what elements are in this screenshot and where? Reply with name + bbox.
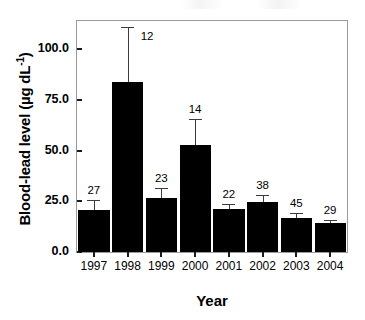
y-axis-tick-label: 75.0 — [45, 92, 69, 107]
y-axis-title-text: Blood-lead level (µg dL — [16, 66, 33, 226]
sample-size-label-2000: 14 — [189, 103, 202, 116]
y-axis-tick-label: 50.0 — [45, 143, 69, 158]
bar-1997 — [78, 210, 109, 252]
x-axis-tick-mark — [127, 252, 129, 257]
sample-size-label-2004: 29 — [324, 204, 337, 217]
bar-2002 — [247, 202, 278, 252]
y-axis-title-tail: ) — [16, 52, 33, 57]
x-axis-tick-mark — [262, 252, 264, 257]
x-axis-tick-label: 2002 — [249, 259, 276, 273]
error-bar-1997 — [94, 200, 95, 211]
y-axis-tick-mark — [77, 150, 82, 152]
x-axis-tick-label: 2003 — [283, 259, 310, 273]
bar-1999 — [146, 198, 177, 252]
x-axis-tick-label: 2004 — [317, 259, 344, 273]
error-cap-2003 — [290, 213, 303, 214]
y-axis-title: Blood-lead level (µg dL-1) — [15, 9, 33, 269]
scan-artifact — [180, 0, 350, 9]
x-axis-tick-mark — [160, 252, 162, 257]
x-axis-tick-mark — [194, 252, 196, 257]
x-axis-tick-mark — [93, 252, 95, 257]
error-cap-2002 — [256, 195, 269, 196]
sample-size-label-1997: 27 — [87, 184, 100, 197]
x-axis-tick-label: 1998 — [114, 259, 141, 273]
error-cap-2000 — [189, 119, 202, 120]
error-cap-1998 — [121, 27, 134, 28]
y-axis-tick-mark — [77, 48, 82, 50]
error-cap-2004 — [324, 220, 337, 221]
x-axis-tick-mark — [329, 252, 331, 257]
error-cap-1999 — [155, 188, 168, 189]
x-axis-tick-label: 1999 — [148, 259, 175, 273]
bar-2001 — [213, 209, 244, 252]
y-axis-tick-mark — [77, 200, 82, 202]
bar-1998 — [112, 82, 143, 252]
error-cap-2001 — [222, 204, 235, 205]
error-bar-2000 — [195, 119, 196, 145]
x-axis-title: Year — [76, 292, 348, 309]
y-axis-title-exponent: -1 — [15, 57, 26, 66]
chart-figure: Blood-lead level (µg dL-1) 0.025.050.075… — [0, 0, 365, 320]
bar-2003 — [281, 218, 312, 252]
x-axis-tick-label: 2000 — [182, 259, 209, 273]
plot-area: 0.025.050.075.0100.0 1997199819992000200… — [76, 20, 348, 253]
x-axis-tick-label: 2001 — [216, 259, 243, 273]
sample-size-label-1998: 12 — [141, 30, 154, 43]
error-bar-1998 — [128, 27, 129, 82]
error-bar-1999 — [161, 188, 162, 198]
bar-2004 — [315, 223, 346, 252]
y-axis-tick-label: 25.0 — [45, 193, 69, 208]
sample-size-label-2003: 45 — [290, 197, 303, 210]
y-axis-tick-mark — [77, 99, 82, 101]
x-axis-tick-mark — [295, 252, 297, 257]
x-axis-tick-mark — [228, 252, 230, 257]
y-axis-tick-label: 100.0 — [38, 41, 69, 56]
sample-size-label-2002: 38 — [256, 179, 269, 192]
sample-size-label-1999: 23 — [155, 172, 168, 185]
error-cap-1997 — [87, 200, 100, 201]
y-axis-tick-label: 0.0 — [52, 244, 69, 259]
sample-size-label-2001: 22 — [222, 188, 235, 201]
x-axis-tick-label: 1997 — [81, 259, 108, 273]
bar-2000 — [180, 145, 211, 252]
